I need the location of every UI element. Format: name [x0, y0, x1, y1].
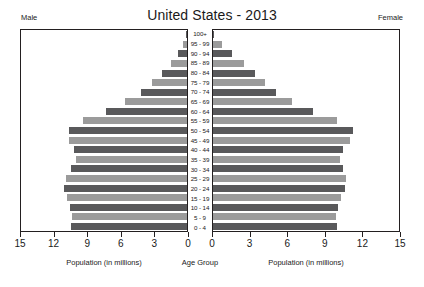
female-plot-panel — [212, 29, 400, 232]
bar — [76, 156, 187, 163]
bar — [106, 108, 187, 115]
age-group-label: 35 - 39 — [188, 155, 212, 165]
axis-tick — [325, 232, 326, 237]
axis-tick-label: 6 — [118, 238, 124, 249]
age-group-axis: 100+95 - 9990 - 9485 - 8980 - 8475 - 797… — [188, 29, 212, 232]
bar-row — [21, 97, 187, 107]
bar — [213, 146, 343, 153]
bar — [213, 31, 214, 38]
bar — [162, 70, 187, 77]
bar-row — [213, 193, 399, 203]
bar-row — [21, 59, 187, 69]
bar-row — [21, 135, 187, 145]
axis-tick-label: 0 — [209, 238, 215, 249]
bar — [213, 117, 337, 124]
bar-row — [213, 107, 399, 117]
bar — [74, 146, 187, 153]
axis-tick — [54, 232, 55, 237]
axis-tick — [250, 232, 251, 237]
bar — [67, 194, 187, 201]
age-group-label: 75 - 79 — [188, 77, 212, 87]
bar — [152, 79, 187, 86]
axis-tick — [362, 232, 363, 237]
age-group-label: 5 - 9 — [188, 213, 212, 223]
axis-tick-label: 6 — [284, 238, 290, 249]
male-axis-caption: Population (in millions) — [66, 258, 141, 267]
age-group-label: 95 - 99 — [188, 39, 212, 49]
bar-row — [21, 116, 187, 126]
bar-row — [21, 30, 187, 40]
bar-row — [21, 145, 187, 155]
bar-row — [21, 107, 187, 117]
bar-row — [213, 40, 399, 50]
axis-tick-label: 15 — [14, 238, 25, 249]
axis-tick-label: 3 — [247, 238, 253, 249]
bar — [213, 185, 345, 192]
bar — [213, 213, 336, 220]
axis-tick — [400, 232, 401, 237]
bar-row — [213, 97, 399, 107]
bar-row — [213, 155, 399, 165]
age-group-label: 70 - 74 — [188, 87, 212, 97]
bar-row — [213, 87, 399, 97]
chart-title: United States - 2013 — [0, 7, 424, 23]
bar — [71, 223, 187, 230]
bar-row — [21, 193, 187, 203]
bar-row — [21, 155, 187, 165]
axis-tick — [121, 232, 122, 237]
axis-tick — [287, 232, 288, 237]
bar-row — [21, 183, 187, 193]
bar — [66, 175, 187, 182]
bar-row — [21, 164, 187, 174]
bar — [71, 165, 187, 172]
bar-row — [21, 78, 187, 88]
age-group-label: 50 - 54 — [188, 126, 212, 136]
age-group-label: 10 - 14 — [188, 203, 212, 213]
bar-row — [213, 212, 399, 222]
bar-row — [213, 145, 399, 155]
female-axis-caption: Population (in millions) — [268, 258, 343, 267]
bar — [213, 79, 265, 86]
axis-tick — [154, 232, 155, 237]
male-plot-panel — [20, 29, 188, 232]
age-group-label: 90 - 94 — [188, 48, 212, 58]
axis-tick — [87, 232, 88, 237]
bar — [213, 70, 255, 77]
bar-row — [213, 174, 399, 184]
axis-tick-label: 15 — [394, 238, 405, 249]
bar — [213, 223, 337, 230]
bar-row — [213, 126, 399, 136]
bar — [171, 60, 187, 67]
bar-row — [213, 164, 399, 174]
bar-row — [213, 116, 399, 126]
female-panel-label: Female — [378, 13, 403, 22]
bar — [178, 50, 187, 57]
age-group-label: 40 - 44 — [188, 145, 212, 155]
bar — [213, 194, 341, 201]
bar — [213, 108, 313, 115]
bar-row — [21, 87, 187, 97]
bar — [213, 165, 343, 172]
bar-row — [213, 183, 399, 193]
axis-tick — [20, 232, 21, 237]
bar-row — [21, 40, 187, 50]
bar — [72, 213, 187, 220]
bar-row — [213, 49, 399, 59]
population-pyramid-chart: United States - 2013 Male Female 100+95 … — [0, 0, 424, 287]
bar — [125, 98, 187, 105]
bar — [186, 31, 187, 38]
bar — [213, 89, 276, 96]
bar-row — [213, 68, 399, 78]
age-group-axis-caption: Age Group — [182, 258, 218, 267]
age-group-label: 80 - 84 — [188, 68, 212, 78]
age-group-label: 85 - 89 — [188, 58, 212, 68]
age-group-label: 30 - 34 — [188, 164, 212, 174]
age-group-label: 20 - 24 — [188, 184, 212, 194]
axis-tick-label: 3 — [152, 238, 158, 249]
male-value-axis: 15129630 — [20, 232, 188, 250]
axis-tick — [188, 232, 189, 237]
bar-row — [213, 202, 399, 212]
bar — [213, 204, 338, 211]
bar — [213, 175, 346, 182]
bar — [213, 98, 292, 105]
